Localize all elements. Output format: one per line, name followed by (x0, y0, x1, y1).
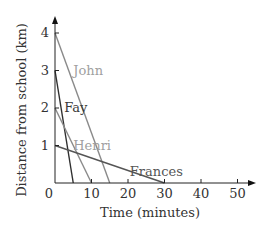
y-tick-label: 2 (41, 100, 49, 115)
x-tick-label: 10 (83, 186, 100, 201)
distance-time-chart: 1020304050 1234 0 Time (minutes) Distanc… (0, 0, 271, 231)
y-axis-label: Distance from school (km) (14, 23, 29, 197)
series-labels: JohnFayHenriFrances (64, 63, 183, 179)
series-label-john: John (71, 63, 103, 78)
x-axis-label: Time (minutes) (100, 205, 200, 220)
y-tick-label: 3 (41, 63, 49, 78)
x-ticks: 1020304050 (83, 179, 246, 201)
y-tick-label: 4 (41, 25, 49, 40)
series-label-frances: Frances (130, 164, 183, 179)
origin-label: 0 (45, 186, 53, 201)
x-tick-label: 50 (229, 186, 246, 201)
series-label-fay: Fay (64, 100, 88, 115)
y-tick-label: 1 (41, 138, 49, 153)
x-tick-label: 30 (156, 186, 173, 201)
y-ticks: 1234 (41, 25, 59, 153)
y-axis-arrow-icon (52, 16, 58, 24)
x-tick-label: 40 (193, 186, 210, 201)
series-label-henri: Henri (73, 138, 111, 153)
x-tick-label: 20 (120, 186, 137, 201)
x-axis-arrow-icon (248, 180, 256, 186)
